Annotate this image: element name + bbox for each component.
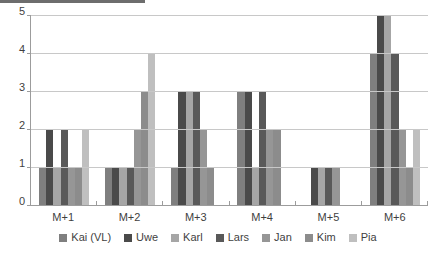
legend-swatch-icon (59, 234, 67, 242)
gridline-4 (31, 53, 428, 54)
gridline-5 (31, 15, 428, 16)
legend-label: Kim (317, 232, 336, 243)
gridline-1 (31, 167, 428, 168)
legend-item-jan[interactable]: Jan (262, 232, 292, 243)
y-tick-mark-1 (27, 167, 31, 168)
bar-M+5-uwe[interactable] (311, 168, 318, 206)
bar-M+3-uwe[interactable] (178, 92, 185, 206)
bar-M+1-karl[interactable] (53, 168, 60, 206)
bar-M+3-karl[interactable] (186, 92, 193, 206)
bar-group-M+6 (362, 16, 428, 206)
x-axis-label-M+2: M+2 (96, 208, 162, 226)
legend-item-uwe[interactable]: Uwe (124, 232, 158, 243)
x-axis-label-M+5: M+5 (295, 208, 361, 226)
plot-area: 012345 (30, 16, 428, 206)
legend-swatch-icon (349, 234, 357, 242)
x-axis-label-M+4: M+4 (229, 208, 295, 226)
y-tick-mark-0 (27, 205, 31, 206)
y-tick-label-5: 5 (19, 6, 25, 17)
x-axis-label-M+3: M+3 (163, 208, 229, 226)
bar-group-M+1 (31, 16, 97, 206)
legend-label: Jan (274, 232, 292, 243)
y-tick-mark-3 (27, 91, 31, 92)
y-tick-label-4: 4 (19, 44, 25, 55)
bar-M+6-kim[interactable] (406, 168, 413, 206)
bars-M+1 (39, 16, 89, 206)
legend-label: Uwe (136, 232, 158, 243)
legend-item-karl[interactable]: Karl (171, 232, 203, 243)
bar-M+2-jan[interactable] (134, 130, 141, 206)
bar-chart: 012345 M+1M+2M+3M+4M+5M+6 Kai (VL)UweKar… (0, 0, 436, 263)
bar-M+2-kai-vl-[interactable] (105, 168, 112, 206)
gridline-0 (31, 205, 428, 206)
bar-M+6-pia[interactable] (413, 130, 420, 206)
y-tick-mark-4 (27, 53, 31, 54)
bar-M+2-kim[interactable] (141, 92, 148, 206)
bars-M+2 (105, 16, 155, 206)
window-top-strip (0, 0, 145, 3)
bar-M+1-kim[interactable] (75, 168, 82, 206)
bar-M+1-jan[interactable] (68, 168, 75, 206)
legend-swatch-icon (305, 234, 313, 242)
gridline-2 (31, 129, 428, 130)
bar-M+3-lars[interactable] (193, 92, 200, 206)
legend-item-kim[interactable]: Kim (305, 232, 336, 243)
bar-group-M+3 (163, 16, 229, 206)
x-axis-label-M+6: M+6 (362, 208, 428, 226)
bar-M+6-uwe[interactable] (377, 16, 384, 206)
legend-label: Pia (361, 232, 377, 243)
bar-M+5-lars[interactable] (325, 168, 332, 206)
y-tick-label-2: 2 (19, 120, 25, 131)
bar-M+4-uwe[interactable] (245, 92, 252, 206)
y-tick-label-1: 1 (19, 158, 25, 169)
bar-M+6-jan[interactable] (399, 130, 406, 206)
bars-M+4 (237, 16, 287, 206)
bar-M+4-karl[interactable] (252, 168, 259, 206)
bar-group-M+4 (230, 16, 296, 206)
bar-M+2-uwe[interactable] (112, 168, 119, 206)
y-tick-label-0: 0 (19, 196, 25, 207)
bar-M+6-lars[interactable] (391, 54, 398, 206)
chart-legend: Kai (VL)UweKarlLarsJanKimPia (0, 232, 436, 243)
bar-M+1-uwe[interactable] (46, 130, 53, 206)
legend-item-lars[interactable]: Lars (216, 232, 249, 243)
legend-item-pia[interactable]: Pia (349, 232, 377, 243)
bar-M+3-kim[interactable] (207, 168, 214, 206)
x-axis-label-M+1: M+1 (30, 208, 96, 226)
bars-M+3 (171, 16, 221, 206)
legend-label: Lars (228, 232, 249, 243)
bar-M+2-lars[interactable] (127, 168, 134, 206)
y-tick-label-3: 3 (19, 82, 25, 93)
bar-M+1-lars[interactable] (61, 130, 68, 206)
bar-M+4-kai-vl-[interactable] (237, 92, 244, 206)
bar-M+2-pia[interactable] (148, 54, 155, 206)
bars-M+6 (370, 16, 420, 206)
x-axis-labels: M+1M+2M+3M+4M+5M+6 (30, 208, 428, 226)
bar-M+5-karl[interactable] (318, 168, 325, 206)
bar-M+5-jan[interactable] (332, 168, 339, 206)
bar-groups (31, 16, 428, 206)
bar-group-M+5 (296, 16, 362, 206)
bar-M+4-kim[interactable] (273, 130, 280, 206)
legend-swatch-icon (262, 234, 270, 242)
bars-M+5 (304, 16, 354, 206)
bar-M+4-lars[interactable] (259, 92, 266, 206)
y-tick-mark-5 (27, 15, 31, 16)
bar-M+2-karl[interactable] (119, 168, 126, 206)
legend-item-kai-vl-[interactable]: Kai (VL) (59, 232, 111, 243)
bar-M+3-kai-vl-[interactable] (171, 168, 178, 206)
y-tick-mark-2 (27, 129, 31, 130)
bar-M+6-kai-vl-[interactable] (370, 54, 377, 206)
bar-M+3-jan[interactable] (200, 130, 207, 206)
legend-swatch-icon (216, 234, 224, 242)
bar-M+1-pia[interactable] (82, 130, 89, 206)
legend-swatch-icon (124, 234, 132, 242)
legend-label: Karl (183, 232, 203, 243)
legend-label: Kai (VL) (71, 232, 111, 243)
legend-swatch-icon (171, 234, 179, 242)
bar-M+6-karl[interactable] (384, 16, 391, 206)
bar-M+1-kai-vl-[interactable] (39, 168, 46, 206)
gridline-3 (31, 91, 428, 92)
bar-group-M+2 (97, 16, 163, 206)
bar-M+4-jan[interactable] (266, 130, 273, 206)
